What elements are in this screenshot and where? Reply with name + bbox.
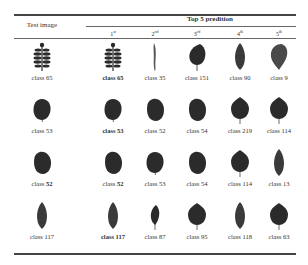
class-label: class 114 <box>256 127 302 134</box>
prediction-cell: class 65 <box>90 42 136 81</box>
round-leaf-icon <box>32 95 52 125</box>
test-image-cell: class 117 <box>19 201 65 240</box>
class-label: class 63 <box>256 233 302 240</box>
oval-leaf-icon <box>145 95 165 125</box>
header-rank-5: 5th <box>264 29 294 37</box>
lanceolate-leaf-icon <box>32 201 52 231</box>
prediction-cell: class 54 <box>174 148 220 187</box>
compound-leaf-icon <box>32 42 52 72</box>
round-leaf-icon <box>145 148 165 178</box>
obovate-leaf-icon <box>269 42 289 72</box>
prediction-cell: class 151 <box>174 42 220 81</box>
class-label: class 117 <box>90 233 136 240</box>
prediction-cell: class 54 <box>174 95 220 134</box>
table-bottom-rule <box>14 253 296 255</box>
prediction-cell: class 52 <box>132 95 178 134</box>
prediction-cell: class 53 <box>132 148 178 187</box>
test-image-cell: class 65 <box>19 42 65 81</box>
header-rank-1: 1st <box>98 29 128 37</box>
round-leaf-icon <box>103 95 123 125</box>
class-label: class 9 <box>256 74 302 81</box>
table-header-rule <box>14 38 296 39</box>
oval-leaf-icon <box>187 95 207 125</box>
prediction-cell: class 35 <box>132 42 178 81</box>
prediction-cell: class 114 <box>256 95 302 134</box>
class-label: class 53 <box>90 127 136 134</box>
class-label: class 35 <box>132 74 178 81</box>
table-subheader-rule <box>86 26 296 27</box>
lanceolate-leaf-icon <box>103 201 123 231</box>
prediction-cell: class 52 <box>90 148 136 187</box>
round-leaf-icon <box>269 95 289 125</box>
prediction-cell: class 63 <box>256 201 302 240</box>
lanceolate-leaf-icon <box>230 42 250 72</box>
oval-leaf-icon <box>32 148 52 178</box>
compound-leaf-icon <box>103 42 123 72</box>
class-label: class 54 <box>174 180 220 187</box>
class-label: class 65 <box>90 74 136 81</box>
test-image-cell: class 52 <box>19 148 65 187</box>
test-image-cell: class 53 <box>19 95 65 134</box>
class-label: class 52 <box>132 127 178 134</box>
header-rank-3: 3rd <box>182 29 212 37</box>
oval-leaf-icon <box>187 148 207 178</box>
lanceolate-leaf-icon <box>269 148 289 178</box>
header-rank-4: 4th <box>225 29 255 37</box>
class-label: class 53 <box>19 127 65 134</box>
class-label: class 54 <box>174 127 220 134</box>
prediction-cell: class 13 <box>256 148 302 187</box>
prediction-cell: class 9 <box>256 42 302 81</box>
class-label: class 52 <box>90 180 136 187</box>
prediction-cell: class 95 <box>174 201 220 240</box>
round-leaf-icon <box>230 148 250 178</box>
header-top5-prediction: Top 5 predition <box>150 15 270 23</box>
round-leaf-icon <box>187 201 207 231</box>
prediction-cell: class 53 <box>90 95 136 134</box>
header-rank-2: 2nd <box>140 29 170 37</box>
round-leaf-icon <box>230 95 250 125</box>
prediction-cell: class 87 <box>132 201 178 240</box>
lanceolate-leaf-icon <box>230 201 250 231</box>
round-leaf-icon <box>187 42 207 72</box>
needle-leaf-icon <box>145 42 165 72</box>
class-label: class 87 <box>132 233 178 240</box>
round-leaf-icon <box>269 201 289 231</box>
class-label: class 65 <box>19 74 65 81</box>
lanceolate-leaf-icon <box>145 201 165 231</box>
class-label: class 13 <box>256 180 302 187</box>
class-label: class 52 <box>19 180 65 187</box>
prediction-cell: class 117 <box>90 201 136 240</box>
oval-leaf-icon <box>103 148 123 178</box>
header-test-image: Test image <box>18 21 66 29</box>
class-label: class 53 <box>132 180 178 187</box>
class-label: class 151 <box>174 74 220 81</box>
class-label: class 117 <box>19 233 65 240</box>
class-label: class 95 <box>174 233 220 240</box>
